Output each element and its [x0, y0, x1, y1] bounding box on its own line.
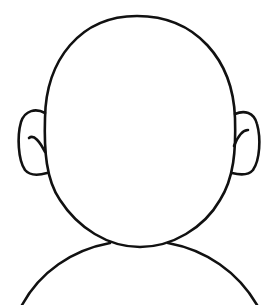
- head-outline-drawing: [0, 0, 271, 305]
- left-ear-inner-line: [29, 137, 45, 152]
- left-ear-outline: [19, 110, 47, 174]
- head-outline: [45, 16, 235, 247]
- shoulders-outline: [22, 243, 257, 305]
